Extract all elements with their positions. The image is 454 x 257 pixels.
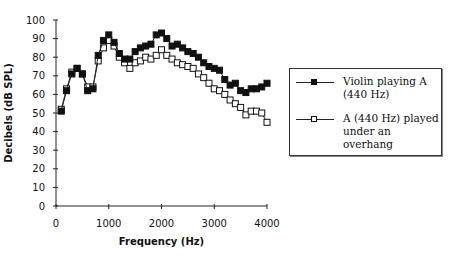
y-tick-label: 10 bbox=[32, 182, 45, 193]
filled-square-marker-icon bbox=[90, 86, 96, 92]
open-square-marker-icon bbox=[296, 115, 334, 125]
y-tick-label: 0 bbox=[39, 201, 45, 212]
y-tick-label: 100 bbox=[26, 15, 45, 26]
filled-square-marker-icon bbox=[111, 39, 117, 45]
x-tick-label: 1000 bbox=[96, 218, 121, 229]
y-tick-label: 20 bbox=[32, 163, 45, 174]
filled-square-marker-icon bbox=[264, 80, 270, 86]
filled-square-marker-icon bbox=[164, 36, 170, 42]
y-tick-label: 40 bbox=[32, 126, 45, 137]
open-square-marker-icon bbox=[238, 104, 244, 110]
legend-label-violin: Violin playing A (440 Hz) bbox=[343, 75, 441, 101]
filled-square-marker-icon bbox=[58, 108, 64, 114]
filled-square-marker-icon bbox=[64, 88, 70, 94]
filled-square-marker-icon bbox=[127, 56, 133, 62]
filled-square-marker-icon bbox=[79, 71, 85, 77]
series-line bbox=[61, 33, 267, 111]
x-tick-label: 0 bbox=[53, 218, 59, 229]
x-axis-title: Frequency (Hz) bbox=[119, 236, 204, 247]
filled-square-marker-icon bbox=[148, 41, 154, 47]
y-tick-label: 60 bbox=[32, 89, 45, 100]
y-tick-label: 80 bbox=[32, 52, 45, 63]
x-tick-label: 3000 bbox=[202, 218, 227, 229]
open-square-marker-icon bbox=[264, 119, 270, 125]
x-tick-label: 4000 bbox=[254, 218, 279, 229]
y-axis-title: Decibels (dB SPL) bbox=[3, 63, 14, 163]
y-tick-label: 90 bbox=[32, 33, 45, 44]
y-tick-label: 70 bbox=[32, 70, 45, 81]
y-tick-label: 50 bbox=[32, 108, 45, 119]
filled-square-marker-icon bbox=[296, 78, 334, 88]
data-series bbox=[58, 30, 270, 125]
x-tick-label: 2000 bbox=[149, 218, 174, 229]
filled-square-marker-icon bbox=[95, 52, 101, 58]
filled-square-marker-icon bbox=[106, 32, 112, 38]
filled-square-marker-icon bbox=[232, 80, 238, 86]
legend: Violin playing A (440 Hz) A (440 Hz) pla… bbox=[289, 68, 442, 156]
filled-square-marker-icon bbox=[217, 67, 223, 73]
open-square-marker-icon bbox=[259, 110, 265, 116]
y-tick-label: 30 bbox=[32, 145, 45, 156]
legend-label-overhang: A (440 Hz) played under an overhang bbox=[343, 112, 441, 151]
